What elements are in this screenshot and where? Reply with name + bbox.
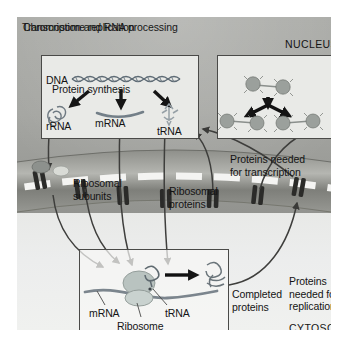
completed-protein-icon [206,262,225,287]
protein-synthesis-title: Protein synthesis [52,83,130,95]
mrna-label-cytosol: mRNA [89,307,120,320]
completed-proteins-label: Completed proteins [232,288,290,313]
cell-frame: Transcription and RNA processing DNA rRN… [17,17,331,330]
cell-diagram-figure: Transcription and RNA processing DNA rRN… [0,0,348,346]
trna-label-cytosol: tRNA [165,307,190,320]
nucleus-label: NUCLEUS [285,38,331,51]
synthesis-panel-graphics [17,17,331,330]
ribosome-label: Ribosome [117,320,163,330]
cytosol-label: CYTOSOL [289,322,331,330]
proteins-for-replication-label: Proteins needed for replication [289,275,331,313]
